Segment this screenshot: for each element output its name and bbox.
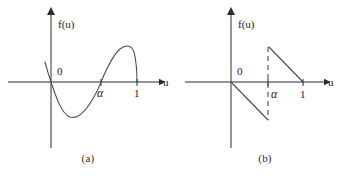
one-tick-label-a: 1 [134,87,140,99]
plot-canvas-a: f(u) u 0 α 1 [0,0,176,155]
alpha-tick-label-b: α [271,87,278,101]
origin-label-a: 0 [57,65,63,77]
plot-panel-b: f(u) u 0 α 1 (b) [177,0,353,182]
panel-caption-b: (b) [177,152,353,164]
segment-right-branch-b [269,47,303,82]
segment-left-branch-b [231,82,268,120]
y-axis-label-b: f(u) [238,18,255,31]
origin-label-b: 0 [237,65,243,77]
figure-root: f(u) u 0 α 1 (a) [0,0,353,182]
x-axis-label-a: u [163,76,169,88]
panel-caption-a: (a) [0,152,176,164]
plot-panel-a: f(u) u 0 α 1 (a) [0,0,176,182]
y-axis-label-a: f(u) [58,18,75,31]
x-axis-label-b: u [328,76,334,88]
alpha-tick-label-a: α [97,86,104,100]
plot-canvas-b: f(u) u 0 α 1 [177,0,353,155]
one-tick-label-b: 1 [300,88,306,100]
